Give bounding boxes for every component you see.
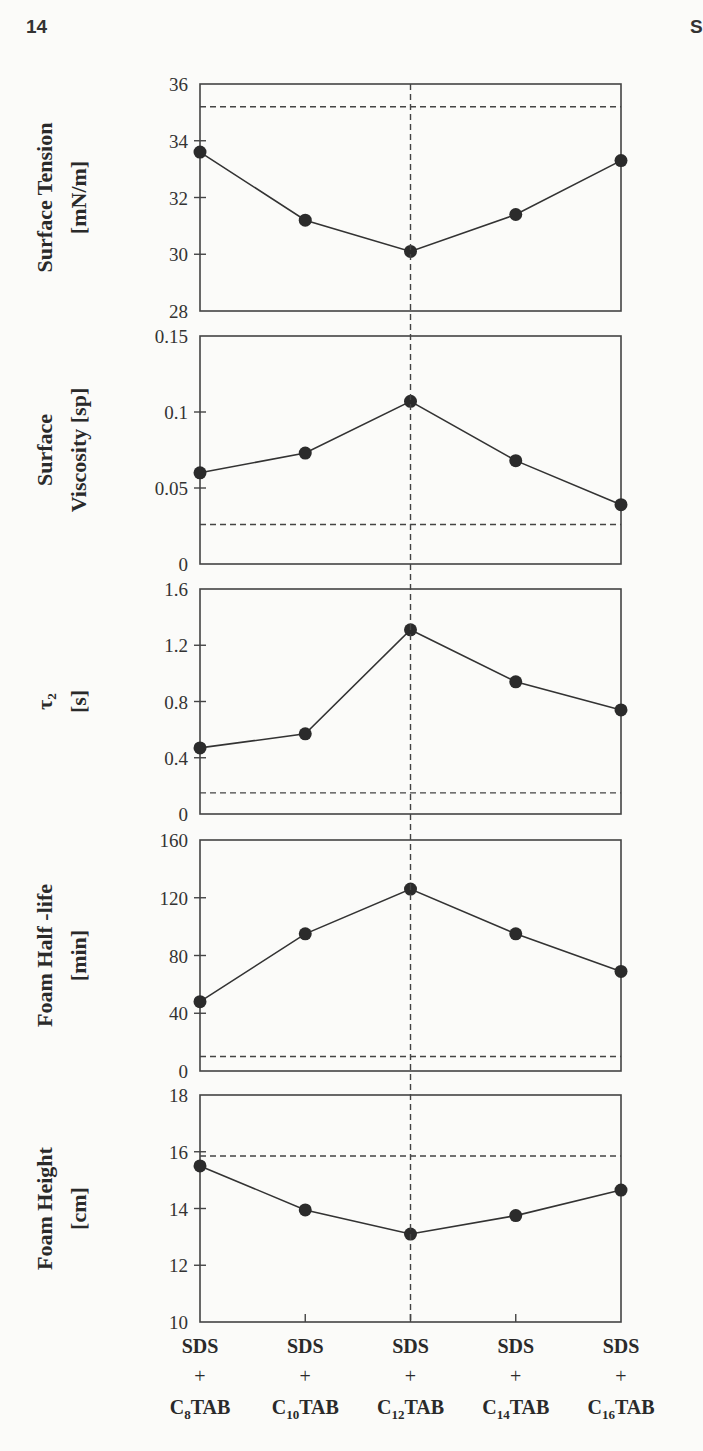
- category-line-top: SDS: [182, 1335, 219, 1357]
- x-axis-category-labels: SDS+C8TABSDS+C10TABSDS+C12TABSDS+C14TABS…: [170, 1335, 655, 1422]
- category-line-top: SDS: [287, 1335, 324, 1357]
- y-tick-label: 18: [169, 1085, 188, 1106]
- data-point-marker: [194, 146, 207, 159]
- y-tick-label: 1.2: [164, 635, 188, 656]
- x-category-label: SDS+C12TAB: [377, 1335, 444, 1422]
- data-point-marker: [509, 454, 522, 467]
- y-tick-label: 0.05: [155, 478, 188, 499]
- y-tick-label: 0: [179, 554, 189, 575]
- y-axis-label: τ₂: [32, 693, 57, 710]
- y-tick-label: 36: [169, 74, 188, 95]
- y-axis-label: [mN/m]: [66, 161, 91, 234]
- y-tick-label: 160: [160, 830, 189, 851]
- category-line-top: SDS: [603, 1335, 640, 1357]
- category-line-plus: +: [615, 1365, 626, 1387]
- data-point-marker: [615, 154, 628, 167]
- chart-panel-5: 1012141618Foam Height[cm]: [32, 1085, 628, 1333]
- y-tick-label: 40: [169, 1003, 188, 1024]
- category-line-compound: C16TAB: [587, 1396, 654, 1422]
- y-tick-label: 1.6: [164, 579, 188, 600]
- chart-panel-3: 00.40.81.21.6τ₂[s]: [32, 579, 628, 825]
- y-axis-label: Surface: [32, 414, 57, 486]
- data-point-marker: [299, 727, 312, 740]
- y-axis-label: Viscosity [sp]: [66, 388, 91, 512]
- chart-panel-1: 2830323436Surface Tension[mN/m]: [32, 74, 628, 322]
- y-tick-label: 34: [169, 131, 189, 152]
- data-point-marker: [509, 1209, 522, 1222]
- y-axis-label: [s]: [66, 690, 91, 713]
- data-point-marker: [299, 214, 312, 227]
- y-tick-label: 80: [169, 946, 188, 967]
- data-point-marker: [615, 498, 628, 511]
- category-line-compound: C10TAB: [272, 1396, 339, 1422]
- data-point-marker: [194, 741, 207, 754]
- data-point-marker: [615, 965, 628, 978]
- y-tick-label: 30: [169, 244, 188, 265]
- y-tick-label: 12: [169, 1255, 188, 1276]
- category-line-compound: C12TAB: [377, 1396, 444, 1422]
- data-point-marker: [509, 927, 522, 940]
- data-point-marker: [299, 447, 312, 460]
- category-line-plus: +: [194, 1365, 205, 1387]
- y-axis-label: Foam Half -life: [32, 884, 57, 1027]
- y-tick-label: 0.4: [164, 748, 188, 769]
- data-point-marker: [509, 675, 522, 688]
- plot-frame: [200, 589, 621, 814]
- data-point-marker: [299, 1203, 312, 1216]
- category-line-compound: C8TAB: [170, 1396, 231, 1422]
- y-tick-label: 32: [169, 188, 188, 209]
- y-tick-label: 0: [179, 1061, 189, 1082]
- y-tick-label: 0.1: [164, 402, 188, 423]
- chart-panel-4: 04080120160Foam Half -life[min]: [32, 830, 628, 1082]
- x-category-label: SDS+C8TAB: [170, 1335, 231, 1422]
- data-point-marker: [299, 927, 312, 940]
- category-line-top: SDS: [497, 1335, 534, 1357]
- chart-panel-2: 00.050.10.15SurfaceViscosity [sp]: [32, 326, 628, 575]
- x-category-label: SDS+C14TAB: [482, 1335, 549, 1422]
- data-point-marker: [615, 1184, 628, 1197]
- y-axis-label: Foam Height: [32, 1146, 57, 1269]
- data-point-marker: [615, 703, 628, 716]
- category-line-top: SDS: [392, 1335, 429, 1357]
- category-line-plus: +: [510, 1365, 521, 1387]
- data-point-marker: [194, 466, 207, 479]
- category-line-plus: +: [405, 1365, 416, 1387]
- y-axis-label: [min]: [66, 930, 91, 981]
- category-line-compound: C14TAB: [482, 1396, 549, 1422]
- data-point-marker: [194, 1159, 207, 1172]
- y-tick-label: 14: [169, 1199, 189, 1220]
- y-tick-label: 10: [169, 1312, 188, 1333]
- y-tick-label: 16: [169, 1142, 188, 1163]
- y-tick-label: 0.8: [164, 692, 188, 713]
- x-category-label: SDS+C10TAB: [272, 1335, 339, 1422]
- data-point-marker: [509, 208, 522, 221]
- y-axis-label: Surface Tension: [32, 123, 57, 273]
- chart-panels: 2830323436Surface Tension[mN/m]00.050.10…: [32, 74, 628, 1333]
- y-tick-label: 0.15: [155, 326, 188, 347]
- y-tick-label: 120: [160, 888, 189, 909]
- x-category-label: SDS+C16TAB: [587, 1335, 654, 1422]
- y-tick-label: 28: [169, 301, 188, 322]
- y-axis-label: [cm]: [66, 1187, 91, 1230]
- data-point-marker: [194, 995, 207, 1008]
- category-line-plus: +: [300, 1365, 311, 1387]
- y-tick-label: 0: [179, 804, 189, 825]
